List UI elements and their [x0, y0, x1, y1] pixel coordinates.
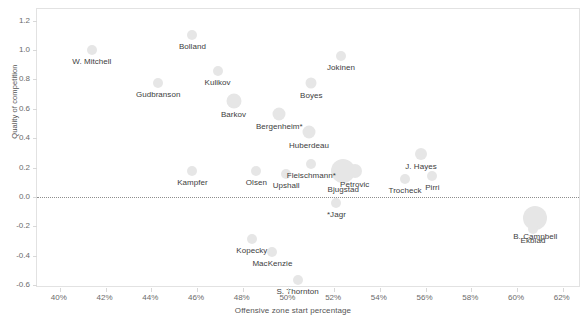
plot-area: BollandW. MitchellJokinenKulikovBoyesGud… — [36, 8, 580, 287]
y-tick-label: 0.0 — [0, 191, 30, 200]
y-tick-label: 1.2 — [0, 15, 30, 24]
x-axis-title: Offensive zone start percentage — [0, 306, 586, 315]
data-point-label: MacKenzie — [252, 259, 292, 268]
data-point-label: Kulikov — [204, 78, 230, 87]
y-tick-label: -0.4 — [0, 250, 30, 259]
y-tick-mark — [33, 197, 37, 198]
x-tick-label: 42% — [97, 293, 113, 302]
data-point-marker — [273, 107, 286, 120]
data-point-label: Upshall — [273, 181, 300, 190]
x-tick-label: 50% — [279, 293, 295, 302]
bubble-chart: BollandW. MitchellJokinenKulikovBoyesGud… — [0, 0, 586, 322]
data-point-label: J. Hayes — [405, 161, 437, 170]
y-tick-mark — [33, 21, 37, 22]
x-tick-mark — [151, 288, 152, 292]
x-tick-label: 56% — [417, 293, 433, 302]
data-point-marker — [331, 198, 341, 208]
y-tick-mark — [33, 256, 37, 257]
y-tick-mark — [33, 50, 37, 51]
data-point-label: Ekblad — [521, 235, 546, 244]
x-tick-mark — [471, 288, 472, 292]
x-tick-label: 60% — [508, 293, 524, 302]
y-tick-mark — [33, 79, 37, 80]
x-tick-label: 52% — [325, 293, 341, 302]
data-point-marker — [336, 51, 346, 61]
data-point-marker — [293, 275, 303, 285]
zero-reference-line — [37, 197, 579, 198]
data-point-marker — [226, 93, 241, 108]
x-tick-label: 46% — [188, 293, 204, 302]
data-point-marker — [415, 148, 427, 160]
data-point-label: W. Mitchell — [72, 57, 111, 66]
data-point-marker — [247, 234, 257, 244]
data-point-label: Fleischmann* — [287, 170, 336, 179]
data-point-marker — [400, 174, 410, 184]
x-tick-label: 62% — [554, 293, 570, 302]
data-point-marker — [153, 78, 163, 88]
y-tick-mark — [33, 226, 37, 227]
x-tick-label: 54% — [371, 293, 387, 302]
data-point-label: Kampfer — [177, 178, 208, 187]
y-tick-mark — [33, 138, 37, 139]
data-point-marker — [251, 166, 261, 176]
data-point-label: Bergenheim* — [256, 122, 303, 131]
data-point-marker — [187, 30, 197, 40]
data-point-label: Olsen — [246, 178, 267, 187]
data-point-label: Barkov — [221, 110, 246, 119]
x-tick-label: 48% — [234, 293, 250, 302]
x-tick-mark — [288, 288, 289, 292]
x-tick-mark — [106, 288, 107, 292]
data-point-marker — [306, 78, 317, 89]
x-tick-mark — [243, 288, 244, 292]
x-tick-mark — [60, 288, 61, 292]
y-tick-mark — [33, 168, 37, 169]
x-tick-mark — [334, 288, 335, 292]
x-tick-label: 44% — [142, 293, 158, 302]
y-tick-label: -0.2 — [0, 221, 30, 230]
y-axis-title: Quality of competition — [10, 32, 19, 172]
y-tick-mark — [33, 109, 37, 110]
data-point-marker — [303, 126, 316, 139]
y-tick-label: -0.6 — [0, 280, 30, 289]
data-point-label: Kopecky — [236, 245, 267, 254]
data-point-marker — [348, 164, 362, 178]
x-tick-mark — [517, 288, 518, 292]
data-point-marker — [187, 166, 197, 176]
y-tick-mark — [33, 285, 37, 286]
x-tick-mark — [426, 288, 427, 292]
data-point-label: Huberdeau — [289, 140, 329, 149]
data-point-marker — [427, 171, 437, 181]
data-point-label: Jokinen — [327, 62, 355, 71]
data-point-label: Bolland — [179, 42, 206, 51]
x-tick-mark — [197, 288, 198, 292]
data-point-label: Boyes — [300, 90, 322, 99]
x-tick-mark — [380, 288, 381, 292]
data-point-label: Trocheck — [388, 185, 421, 194]
x-tick-mark — [563, 288, 564, 292]
data-point-marker — [267, 247, 277, 257]
data-point-label: Petrovic — [340, 180, 369, 189]
data-point-marker — [213, 66, 223, 76]
data-point-label: Pirri — [425, 182, 439, 191]
data-point-label: Gudbranson — [136, 90, 181, 99]
x-tick-label: 40% — [51, 293, 67, 302]
data-point-marker — [306, 159, 316, 169]
data-point-marker — [87, 45, 97, 55]
x-tick-label: 58% — [462, 293, 478, 302]
data-point-label: *Jagr — [327, 209, 346, 218]
